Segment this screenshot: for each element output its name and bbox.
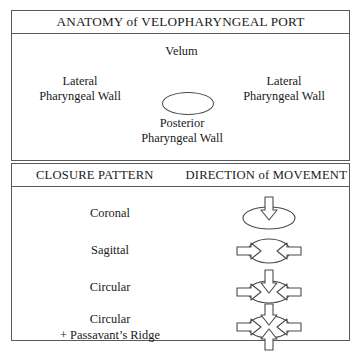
lateral-pharyngeal-wall-right-label: Lateral Pharyngeal Wall (222, 74, 346, 104)
closure-pattern-column-header: CLOSURE PATTERN (12, 164, 184, 186)
table-row: Coronal (12, 195, 349, 232)
closure-pattern-label: Coronal (34, 206, 186, 222)
anatomy-diagram: Velum Lateral Pharyngeal Wall Lateral Ph… (12, 34, 349, 160)
lateral-right-line1: Lateral (222, 74, 346, 89)
velum-label: Velum (12, 44, 351, 59)
table-row: Circular (12, 269, 349, 306)
lateral-left-line1: Lateral (18, 74, 142, 89)
ellipse-with-four-arrows-icon (193, 305, 345, 349)
lateral-pharyngeal-wall-left-label: Lateral Pharyngeal Wall (18, 74, 142, 104)
closure-pattern-name-secondary: + Passavant’s Ridge (34, 327, 186, 343)
posterior-pharyngeal-wall-label: Posterior Pharyngeal Wall (107, 116, 257, 146)
posterior-line1: Posterior (107, 116, 257, 131)
closure-pattern-label: Circular + Passavant’s Ridge (34, 312, 186, 343)
table-row: Circular + Passavant’s Ridge (12, 306, 349, 348)
direction-of-movement-column-header: DIRECTION of MOVEMENT (184, 164, 350, 186)
lateral-right-line2: Pharyngeal Wall (222, 89, 346, 104)
closure-rows: Coronal Sagittal (12, 187, 349, 340)
posterior-line2: Pharyngeal Wall (107, 131, 257, 146)
closure-panel-header: CLOSURE PATTERN DIRECTION of MOVEMENT (12, 164, 349, 187)
closure-panel: CLOSURE PATTERN DIRECTION of MOVEMENT Co… (11, 163, 350, 341)
closure-pattern-label: Sagittal (34, 243, 186, 259)
velopharyngeal-port-figure: ANATOMY of VELOPHARYNGEAL PORT Velum Lat… (11, 10, 352, 341)
velopharyngeal-port-ellipse-icon (162, 92, 214, 115)
closure-pattern-name: Sagittal (34, 243, 186, 259)
lateral-left-line2: Pharyngeal Wall (18, 89, 142, 104)
closure-pattern-name: Circular (34, 312, 186, 328)
anatomy-title: ANATOMY of VELOPHARYNGEAL PORT (12, 11, 349, 34)
closure-pattern-name: Circular (34, 280, 186, 296)
closure-pattern-label: Circular (34, 280, 186, 296)
anatomy-panel: ANATOMY of VELOPHARYNGEAL PORT Velum Lat… (11, 10, 350, 161)
closure-pattern-name: Coronal (34, 206, 186, 222)
table-row: Sagittal (12, 232, 349, 269)
